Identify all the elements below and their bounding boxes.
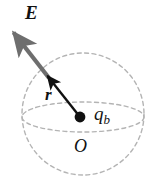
charge-symbol: q (94, 103, 104, 124)
electric-field-arrow (14, 33, 50, 79)
radius-label: r (45, 86, 52, 103)
field-vector-label: E (25, 3, 38, 22)
center-label: O (74, 137, 87, 155)
charge-point-dot (75, 112, 86, 123)
physics-diagram-figure: E r qb O (0, 0, 155, 187)
diagram-canvas (0, 0, 155, 187)
charge-subscript: b (104, 112, 111, 127)
radius-arrow (48, 76, 81, 117)
charge-label: qb (94, 104, 110, 126)
